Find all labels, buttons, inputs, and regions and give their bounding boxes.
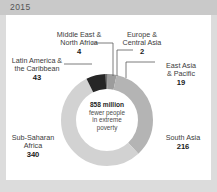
label-europe-central-asia-text: Europe & Central Asia — [123, 30, 162, 48]
value-sub-saharan-africa: 340 — [5, 151, 61, 160]
center-annotation: 858 million fewer people in extreme pove… — [72, 101, 142, 131]
label-sub-saharan-africa-text: Sub-Saharan Africa — [12, 133, 54, 151]
label-east-asia-pacific-text: East Asia & Pacific — [166, 61, 196, 79]
value-east-asia-pacific: 19 — [155, 79, 207, 88]
center-body: fewer people in extreme poverty — [72, 109, 142, 131]
label-middle-east-north-africa-text: Middle East & North Africa — [57, 30, 101, 48]
value-latin-america-caribbean: 43 — [7, 74, 67, 83]
label-east-asia-pacific: East Asia & Pacific 19 — [155, 53, 207, 96]
label-south-asia: South Asia 216 — [157, 125, 209, 160]
poverty-donut-figure: 2015 — [0, 0, 217, 192]
label-latin-america-caribbean: Latin America & the Caribbean 43 — [7, 48, 67, 91]
value-south-asia: 216 — [157, 143, 209, 152]
label-latin-america-caribbean-text: Latin America & the Caribbean — [12, 56, 62, 74]
label-sub-saharan-africa: Sub-Saharan Africa 340 — [5, 125, 61, 168]
label-south-asia-text: South Asia — [166, 133, 200, 142]
center-headline: 858 million — [72, 101, 142, 108]
